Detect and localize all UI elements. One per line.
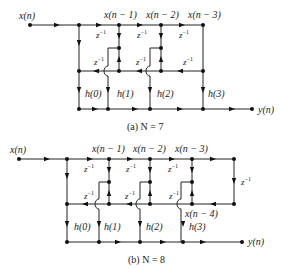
- diagram-b: x(n) x(n − 1) x(n − 2) x(n − 3) z−1 z−1 …: [9, 143, 265, 266]
- delay-label: z−1: [95, 29, 106, 40]
- tap-label-2: x(n − 2): [145, 9, 180, 21]
- output-label: y(n): [257, 104, 275, 116]
- delay-label: z−1: [125, 163, 136, 174]
- delay-label: z−1: [168, 190, 179, 201]
- coeff-h3: h(3): [189, 221, 206, 233]
- tap-label-1: x(n − 1): [91, 143, 126, 155]
- delay-label: z−1: [167, 163, 178, 174]
- coeff-h0: h(0): [85, 88, 102, 100]
- input-label: x(n): [9, 144, 27, 156]
- fir-linear-phase-structures: x(n) x(n − 1) x(n − 2) x(n − 3) z−1 z−1 …: [0, 0, 281, 270]
- delay-label: z−1: [136, 29, 147, 40]
- tap-label-3: x(n − 3): [174, 143, 209, 155]
- delay-label: z−1: [182, 56, 193, 67]
- coeff-h2: h(2): [157, 88, 174, 100]
- delay-label: z−1: [135, 56, 146, 67]
- tap-label-1: x(n − 1): [103, 9, 138, 21]
- delay-label: z−1: [178, 29, 189, 40]
- delay-label: z−1: [240, 176, 251, 187]
- coeff-h3: h(3): [208, 88, 225, 100]
- delay-label: z−1: [83, 190, 94, 201]
- coeff-h2: h(2): [146, 221, 163, 233]
- output-label: y(n): [247, 236, 265, 248]
- tap-label-2: x(n − 2): [132, 143, 167, 155]
- delay-label: z−1: [93, 56, 104, 67]
- caption-b: (b) N = 8: [128, 254, 165, 266]
- diagram-a: x(n) x(n − 1) x(n − 2) x(n − 3) z−1 z−1 …: [18, 9, 275, 133]
- delay-label: z−1: [124, 190, 135, 201]
- caption-a: (a) N = 7: [127, 121, 163, 133]
- coeff-h1: h(1): [117, 88, 134, 100]
- delay-label: z−1: [83, 163, 94, 174]
- input-label: x(n): [18, 10, 36, 22]
- tap-label-3: x(n − 3): [187, 9, 222, 21]
- coeff-h1: h(1): [104, 221, 121, 233]
- coeff-h0: h(0): [74, 221, 91, 233]
- extra-tap-label: x(n − 4): [184, 208, 219, 220]
